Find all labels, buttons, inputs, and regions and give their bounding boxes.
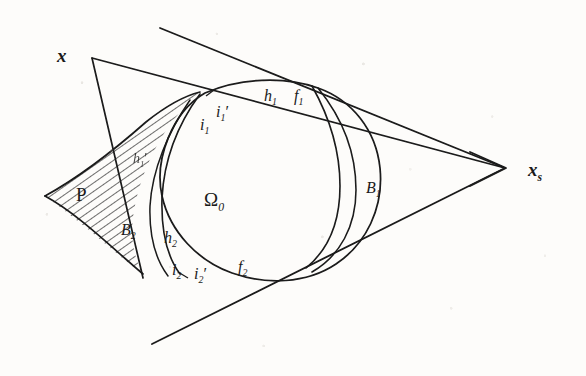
label-hatched-inner: h1′ <box>133 152 147 168</box>
upper-tangent-path <box>160 28 505 168</box>
right-apex-corner <box>470 152 506 186</box>
arc-B1-path-outer <box>312 88 356 272</box>
label-B2: B2 <box>121 222 136 241</box>
diagram-svg <box>0 0 586 376</box>
label-B1: B1 <box>366 180 381 199</box>
label-i1-prime: i1′ <box>216 104 229 123</box>
right-apex-label: xs <box>528 160 542 184</box>
label-i2: i2 <box>172 262 181 281</box>
right-apex-chevron <box>470 152 506 186</box>
label-h1: h1 <box>264 88 277 107</box>
upper-tangent-line <box>160 28 505 168</box>
label-f2: f2 <box>238 259 247 278</box>
region-omega-boundary <box>160 80 380 281</box>
label-i1: i1 <box>200 117 209 136</box>
omega-outline <box>160 80 380 281</box>
label-h2: h2 <box>164 230 177 249</box>
label-i2-prime: i2′ <box>194 266 207 285</box>
label-f1: f1 <box>294 88 303 107</box>
left-apex-label: x <box>57 46 67 70</box>
arc-B1 <box>306 86 356 272</box>
figure-canvas: x xs Ω0 P i1 i1′ h1 f1 B1 B2 h2 i2 i2′ f… <box>0 0 586 376</box>
left-ray-to-right-apex <box>92 58 505 168</box>
label-omega-0: Ω0 <box>204 190 224 214</box>
label-P: P <box>76 185 87 204</box>
